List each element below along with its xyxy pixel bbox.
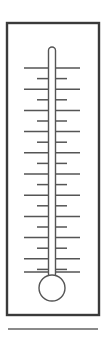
thermometer-tube — [49, 47, 56, 278]
thermometer-figure — [0, 0, 106, 337]
thermometer-bulb — [39, 275, 65, 301]
thermometer-illustration — [0, 0, 106, 337]
